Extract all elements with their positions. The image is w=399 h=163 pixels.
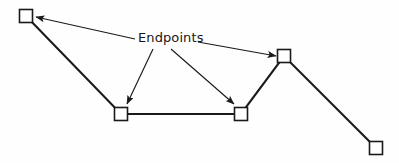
endpoints-label: Endpoints [138,31,204,45]
leader-arrow-to-peak-vertex [198,42,276,56]
endpoints-diagram [0,0,399,163]
diagram-canvas: Endpoints [0,0,399,163]
leader-arrow-to-lower-right-vertex [171,49,234,104]
endpoint-marker-lower-right[interactable] [235,108,248,121]
leader-arrow-to-top-left-endpoint [36,17,135,39]
endpoint-marker-peak[interactable] [278,50,291,63]
endpoint-marker-lower-left[interactable] [115,108,128,121]
leader-arrow-to-lower-left-vertex [127,49,153,104]
endpoint-marker-top-left[interactable] [20,10,33,23]
endpoint-marker-bottom-right[interactable] [370,142,383,155]
